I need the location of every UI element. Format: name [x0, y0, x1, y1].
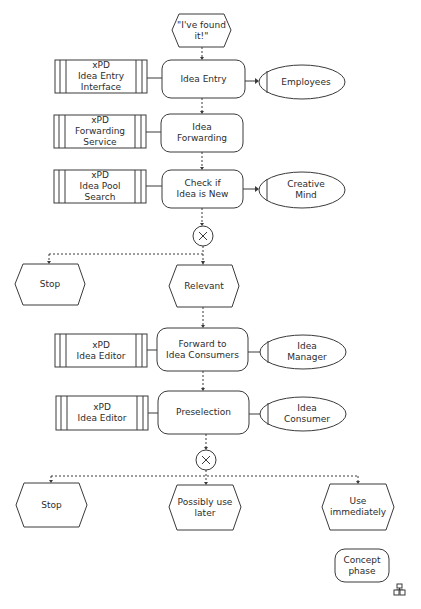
function-label: Preselection	[158, 391, 249, 434]
hierarchy-icon[interactable]	[394, 584, 405, 595]
system-label: xPD Idea Pool Search	[65, 170, 135, 203]
function-label: Forward to Idea Consumers	[157, 328, 248, 371]
branch-event-label: Possibly use later	[169, 485, 241, 530]
system-label: xPD Forwarding Service	[65, 115, 135, 148]
branch-event-label: Use immediately	[322, 484, 394, 530]
system-label: xPD Idea Editor	[67, 396, 137, 430]
function-label: Idea Entry	[162, 60, 245, 98]
xor-connector-2[interactable]	[196, 450, 216, 470]
branch-event-label: Stop	[15, 264, 85, 305]
branch-event-label: Relevant	[169, 265, 239, 307]
start-event-label: "I've found it!"	[172, 14, 231, 47]
role-label: Employees	[267, 65, 345, 99]
role-label: Idea Consumer	[268, 397, 346, 431]
xor-connector-1[interactable]	[193, 226, 213, 246]
function-label: Idea Forwarding	[161, 114, 243, 152]
branch-event-label: Stop	[16, 483, 87, 527]
process-interface-label: Concept phase	[335, 549, 389, 582]
role-label: Idea Manager	[268, 335, 346, 369]
function-label: Check if Idea is New	[162, 170, 243, 208]
system-label: xPD Idea Editor	[66, 334, 136, 367]
system-label: xPD Idea Entry Interface	[66, 60, 136, 93]
role-label: Creative Mind	[267, 172, 345, 208]
